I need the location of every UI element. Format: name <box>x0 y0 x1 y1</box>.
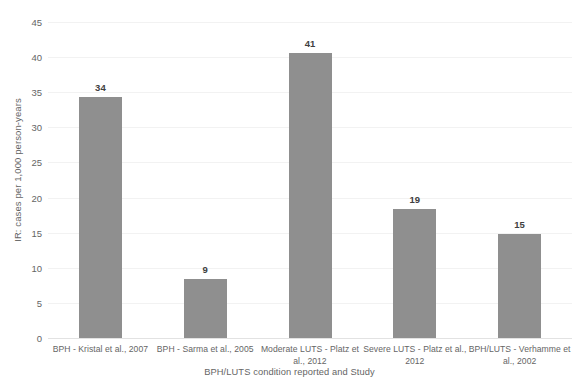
bar-chart: IR: cases per 1,000 person-years 0510152… <box>0 0 579 386</box>
y-tick-label: 15 <box>2 227 42 238</box>
bar-value-label: 41 <box>305 38 316 49</box>
x-tick-label: BPH - Sarma et al., 2005 <box>153 344 257 356</box>
y-tick-label: 35 <box>2 87 42 98</box>
y-tick-label: 25 <box>2 157 42 168</box>
bar-value-label: 19 <box>410 194 421 205</box>
y-axis-title: IR: cases per 1,000 person-years <box>12 40 26 300</box>
y-tick-label: 20 <box>2 192 42 203</box>
bar[interactable] <box>393 209 436 338</box>
y-tick-label: 40 <box>2 52 42 63</box>
bar[interactable] <box>498 234 541 338</box>
y-tick-label: 5 <box>2 297 42 308</box>
bar[interactable] <box>184 279 227 338</box>
bar-value-label: 34 <box>95 82 106 93</box>
bar-value-label: 15 <box>514 219 525 230</box>
x-tick-label: Severe LUTS - Platz et al., 2012 <box>363 344 467 367</box>
y-tick-label: 30 <box>2 122 42 133</box>
bar-value-label: 9 <box>203 264 208 275</box>
plot-area: 051015202530354045349411915 <box>48 22 572 338</box>
y-tick-label: 45 <box>2 17 42 28</box>
x-axis-line <box>48 338 572 339</box>
x-axis-title: BPH/LUTS condition reported and Study <box>0 367 579 377</box>
y-tick-label: 10 <box>2 262 42 273</box>
x-tick-label: Moderate LUTS - Platz et al., 2012 <box>258 344 362 367</box>
bar[interactable] <box>289 53 332 338</box>
x-tick-label: BPH/LUTS - Verhamme et al., 2002 <box>468 344 572 367</box>
y-tick-label: 0 <box>2 333 42 344</box>
bar[interactable] <box>79 97 122 338</box>
x-tick-label: BPH - Kristal et al., 2007 <box>48 344 152 356</box>
gridline <box>48 22 572 23</box>
